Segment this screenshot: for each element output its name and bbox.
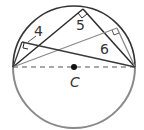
label-5: 5 — [76, 17, 85, 33]
circle-diagram: 4 5 6 C — [0, 0, 144, 130]
label-6: 6 — [100, 41, 109, 57]
segment-5-left — [13, 9, 83, 67]
label-center: C — [70, 74, 80, 90]
circle-upper-arc — [13, 6, 135, 67]
label-4: 4 — [34, 23, 43, 39]
center-point — [71, 64, 77, 70]
segment-4-right — [22, 42, 135, 67]
right-angle-mark-4 — [23, 43, 28, 49]
